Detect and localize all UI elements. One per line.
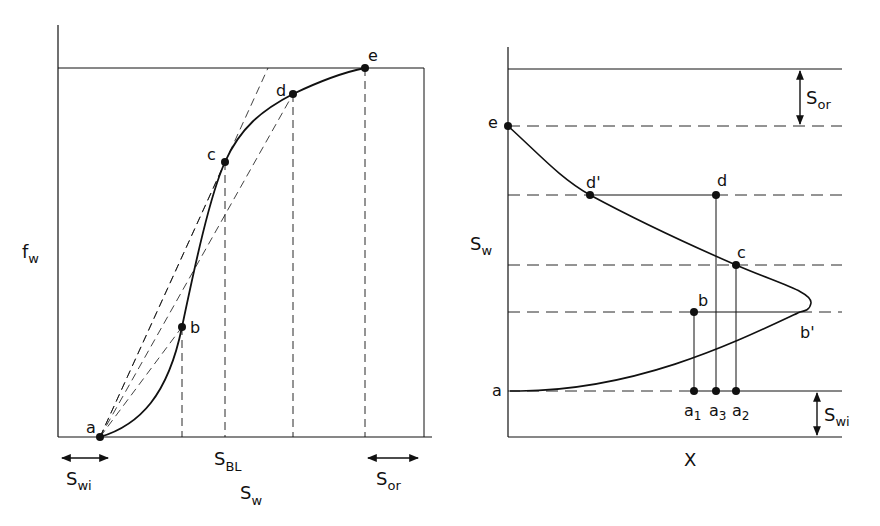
saturation-curve: [508, 126, 811, 391]
sor-label-right: Sor: [806, 87, 831, 112]
sw-axis-label: Sw: [240, 482, 262, 508]
label-a-right: a: [492, 381, 502, 400]
horizontal-guides: [508, 126, 842, 391]
label-b-right: b: [698, 291, 708, 310]
swi-label-left: Swi: [66, 468, 92, 493]
label-c-right: c: [737, 243, 746, 262]
label-e-right: e: [488, 113, 498, 132]
label-a: a: [86, 418, 96, 437]
chord-a-d: [100, 94, 293, 437]
vertical-guides: [182, 68, 365, 437]
label-d-prime: d': [586, 173, 601, 192]
point-a2: [732, 387, 740, 395]
fractional-flow-plot: [58, 25, 432, 437]
label-e: e: [368, 46, 378, 65]
point-d: [289, 90, 297, 98]
point-a1: [690, 387, 698, 395]
point-c-right: [732, 261, 740, 269]
point-b-right: [690, 308, 698, 316]
label-a2: a2: [732, 401, 749, 423]
point-c: [221, 158, 229, 166]
point-a: [96, 433, 104, 441]
point-e: [361, 64, 369, 72]
fw-axis-label: fw: [22, 241, 39, 266]
left-points: [96, 64, 369, 441]
sor-label-left: Sor: [376, 468, 401, 493]
label-d-right: d: [717, 171, 727, 190]
point-b: [178, 323, 186, 331]
saturation-profile-plot: [508, 47, 842, 437]
label-d: d: [276, 81, 286, 100]
label-a1: a1: [684, 401, 701, 423]
chord-a-c: [100, 162, 225, 437]
label-c: c: [207, 145, 216, 164]
x-axis-label: X: [684, 449, 696, 470]
label-a3: a3: [709, 401, 726, 423]
point-d-right: [712, 191, 720, 199]
point-e-right: [504, 122, 512, 130]
label-b: b: [190, 318, 200, 337]
label-b-prime: b': [800, 323, 815, 342]
buckley-leverett-diagram: a b c d e fw SBL Sw Swi Sor: [0, 0, 880, 526]
point-a3: [712, 387, 720, 395]
swi-label-right: Swi: [824, 404, 850, 429]
fw-curve: [100, 68, 365, 437]
sw-axis-label-right: Sw: [470, 233, 492, 258]
chord-lines: [100, 68, 293, 437]
chord-a-b: [100, 327, 182, 437]
point-d-prime: [586, 191, 594, 199]
sbl-label: SBL: [214, 448, 242, 474]
